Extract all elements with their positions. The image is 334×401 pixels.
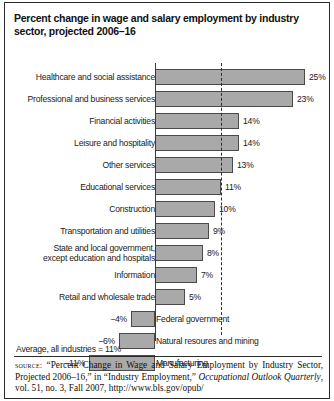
bar-category-label: Transportation and utilities — [60, 220, 155, 242]
bar — [155, 179, 221, 195]
bar-category-label: Construction — [109, 198, 155, 220]
bar-row: Transportation and utilities9% — [5, 220, 330, 242]
bar-row: Educational services11% — [5, 176, 330, 198]
bar — [155, 223, 209, 239]
zero-axis-line — [155, 63, 156, 341]
bar — [155, 113, 239, 129]
bar-row: Leisure and hospitality14% — [5, 132, 330, 154]
bar-row: Federal government−4% — [5, 308, 330, 330]
bar — [119, 333, 155, 349]
source-label: source: — [15, 361, 42, 370]
bar — [155, 69, 305, 85]
average-note: Average, all industries = 11% — [16, 344, 121, 354]
bar-value-label: 9% — [213, 220, 225, 242]
bar-category-label: Professional and business services — [28, 88, 155, 110]
bar-value-label: 7% — [201, 264, 213, 286]
source-note: source: “Percent Change in Wage and Sala… — [15, 360, 323, 395]
bar-row: Information7% — [5, 264, 330, 286]
bar-value-label: 23% — [297, 88, 314, 110]
bar-value-label: 13% — [237, 154, 254, 176]
bar-category-label: State and local government,except educat… — [43, 242, 155, 266]
bar-category-label: Natural resoures and mining — [156, 330, 259, 352]
bar-value-label: 25% — [309, 66, 326, 88]
bar — [155, 245, 203, 261]
chart-title: Percent change in wage and salary employ… — [14, 12, 314, 37]
bar — [155, 201, 215, 217]
bar — [155, 135, 239, 151]
bar-row: Other services13% — [5, 154, 330, 176]
source-publication-title: Occupational Outlook Quarterly — [198, 372, 320, 382]
bar-value-label: 8% — [207, 242, 219, 264]
bar-row: State and local government,except educat… — [5, 242, 330, 264]
bar-value-label: −4% — [110, 308, 127, 330]
bar-row: Healthcare and social assistance25% — [5, 66, 330, 88]
bar-value-label: 11% — [225, 176, 241, 198]
bar — [155, 267, 197, 283]
bar-row: Retail and wholesale trade5% — [5, 286, 330, 308]
bar-value-label: 5% — [189, 286, 201, 308]
bar-category-label: Retail and wholesale trade — [59, 286, 155, 308]
bar-category-label: Leisure and hospitality — [74, 132, 155, 154]
bar-row: Financial activities14% — [5, 110, 330, 132]
average-dashed-line — [221, 63, 222, 335]
bar-row: Construction10% — [5, 198, 330, 220]
chart-plot-area: Healthcare and social assistance25%Profe… — [5, 63, 330, 341]
bar — [131, 311, 155, 327]
bar-category-label: Information — [114, 264, 155, 286]
bar-value-label: 14% — [243, 132, 260, 154]
bar-value-label: 14% — [243, 110, 260, 132]
bar — [155, 289, 185, 305]
bar-category-label: Other services — [102, 154, 155, 176]
bar-row: Professional and business services23% — [5, 88, 330, 110]
bar — [155, 91, 293, 107]
bar-category-label: Healthcare and social assistance — [36, 66, 155, 88]
bar-category-label: Educational services — [80, 176, 155, 198]
figure-container: Percent change in wage and salary employ… — [4, 2, 330, 399]
bar-category-label: Financial activities — [89, 110, 155, 132]
source-divider — [14, 356, 322, 357]
bar-category-label: Federal government — [156, 308, 229, 330]
